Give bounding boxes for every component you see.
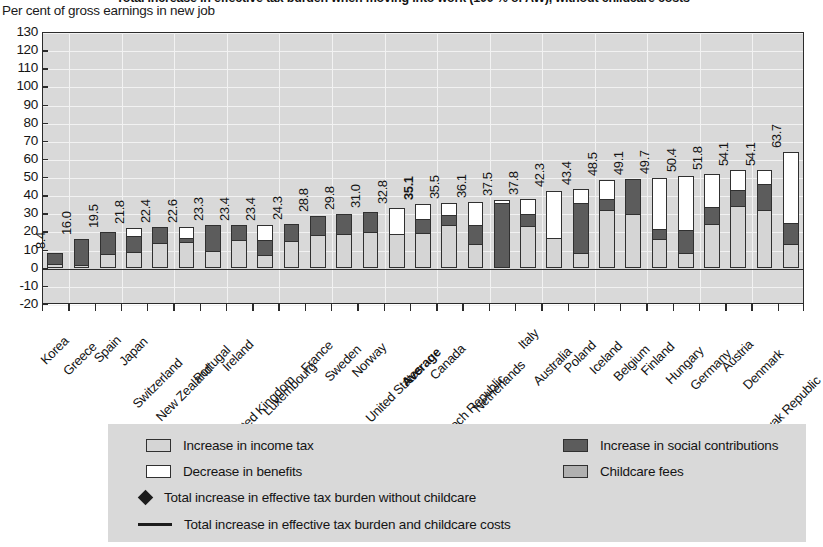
bar-stack[interactable] — [625, 179, 641, 268]
bar-column[interactable]: 23.4 — [257, 32, 273, 304]
bar-column[interactable]: 29.8 — [336, 32, 352, 304]
bar-column[interactable]: 63.7 — [783, 32, 799, 304]
bar-column[interactable]: 24.3 — [284, 32, 300, 304]
legend-swatch-childcare-fees-icon — [563, 465, 588, 478]
bar-stack[interactable] — [757, 170, 773, 268]
y-axis-tick-label: 110 — [17, 62, 38, 76]
bar-segment-tax — [258, 255, 272, 266]
bar-segment-social — [600, 199, 614, 211]
bar-column[interactable]: 32.8 — [389, 32, 405, 304]
bar-column[interactable]: 19.5 — [100, 32, 116, 304]
bar-segment-social — [416, 219, 430, 233]
bar-stack[interactable] — [205, 225, 221, 267]
bar-segment-tax — [285, 241, 299, 267]
bar-column[interactable]: 16.0 — [74, 32, 90, 304]
y-axis-tick-label: 70 — [24, 134, 38, 148]
bar-stack[interactable] — [336, 214, 352, 268]
bar-column[interactable]: 35.5 — [441, 32, 457, 304]
bar-stack[interactable] — [284, 224, 300, 268]
bar-segment-tax — [180, 242, 194, 267]
bar-segment-tax — [364, 232, 378, 267]
bar-segment-social — [784, 223, 798, 245]
bar-segment-tax — [547, 238, 561, 267]
bar-column[interactable]: 31.0 — [363, 32, 379, 304]
bar-column[interactable]: 28.8 — [310, 32, 326, 304]
bar-column[interactable]: 22.4 — [152, 32, 168, 304]
bar-value-label: 37.5 — [480, 172, 495, 196]
bar-stack[interactable] — [730, 170, 746, 268]
y-axis-tick-label: -10 — [19, 279, 38, 293]
bar-stack[interactable] — [179, 227, 195, 268]
bar-column[interactable]: 21.8 — [126, 32, 142, 304]
bar-segment-social — [285, 225, 299, 241]
bar-segment-benefits — [574, 190, 588, 203]
bar-stack[interactable] — [599, 180, 615, 268]
legend-swatch-social-contributions-icon — [563, 439, 588, 452]
bar-column[interactable]: 8.4 — [47, 32, 63, 304]
bar-column[interactable]: 22.6 — [179, 32, 195, 304]
bar-column[interactable]: 54.1 — [730, 32, 746, 304]
bar-segment-tax — [416, 233, 430, 266]
bar-segment-benefits — [653, 179, 667, 230]
bar-segment-benefits — [705, 175, 719, 207]
bar-column[interactable]: 37.5 — [494, 32, 510, 304]
bar-segment-tax — [390, 234, 404, 266]
bar-stack[interactable] — [152, 227, 168, 268]
bar-stack[interactable] — [520, 199, 536, 268]
bar-stack[interactable] — [389, 208, 405, 267]
bar-stack[interactable] — [47, 253, 63, 268]
bar-segment-benefits — [469, 203, 483, 224]
bar-value-label: 37.8 — [506, 172, 521, 196]
bar-value-label: 21.8 — [112, 201, 127, 225]
bar-column[interactable]: 54.1 — [757, 32, 773, 304]
chart-subtitle: Per cent of gross earnings in new job — [2, 3, 215, 18]
bar-segment-social — [153, 228, 167, 242]
bar-stack[interactable] — [441, 203, 457, 267]
bar-column[interactable]: 23.3 — [205, 32, 221, 304]
bar-segment-tax — [337, 234, 351, 267]
bar-column[interactable]: 36.1 — [468, 32, 484, 304]
bar-stack[interactable] — [573, 189, 589, 268]
bar-value-label: 22.4 — [138, 199, 153, 223]
bar-stack[interactable] — [74, 239, 90, 268]
bar-stack[interactable] — [257, 225, 273, 267]
bar-value-label: 36.1 — [454, 175, 469, 199]
bar-value-label: 35.1 — [401, 176, 416, 200]
bar-stack[interactable] — [494, 200, 510, 268]
bar-stack[interactable] — [363, 212, 379, 268]
bar-segment-social — [337, 215, 351, 234]
bar-stack[interactable] — [126, 228, 142, 268]
y-axis-tick-label: 0 — [31, 261, 38, 275]
y-axis-tick — [42, 195, 48, 196]
bar-stack[interactable] — [415, 204, 431, 268]
bar-segment-social — [495, 203, 509, 266]
y-axis-tick-label: 80 — [24, 116, 38, 130]
bar-segment-benefits — [180, 228, 194, 239]
bar-stack[interactable] — [468, 202, 484, 267]
bar-stack[interactable] — [783, 152, 799, 268]
line-marker-icon — [138, 523, 172, 527]
bar-value-label: 51.8 — [690, 146, 705, 170]
bar-stack[interactable] — [678, 176, 694, 267]
bar-value-label: 49.7 — [637, 150, 652, 174]
bar-segment-tax — [101, 254, 115, 267]
bar-segment-social — [731, 190, 745, 206]
y-axis-tick — [42, 141, 48, 142]
bar-stack[interactable] — [310, 216, 326, 268]
bar-stack[interactable] — [704, 174, 720, 268]
y-axis-tick-label: 120 — [16, 43, 38, 57]
y-axis-tick — [42, 159, 48, 160]
bar-column[interactable]: 23.4 — [231, 32, 247, 304]
bar-segment-tax — [626, 214, 640, 266]
bar-stack[interactable] — [231, 225, 247, 267]
bar-stack[interactable] — [546, 191, 562, 268]
bar-segment-social — [705, 207, 719, 224]
bar-stack[interactable] — [652, 178, 668, 268]
y-axis-tick-label: 90 — [24, 98, 38, 112]
bar-value-label: 32.8 — [375, 181, 390, 205]
x-axis-labels: KoreaGreeceSpainJapanSwitzerlandNew Zeal… — [0, 308, 806, 413]
y-axis-tick — [42, 32, 48, 33]
bar-column[interactable]: 51.8 — [704, 32, 720, 304]
bar-column[interactable]: 35.1 — [415, 32, 431, 304]
bar-stack[interactable] — [100, 232, 116, 267]
